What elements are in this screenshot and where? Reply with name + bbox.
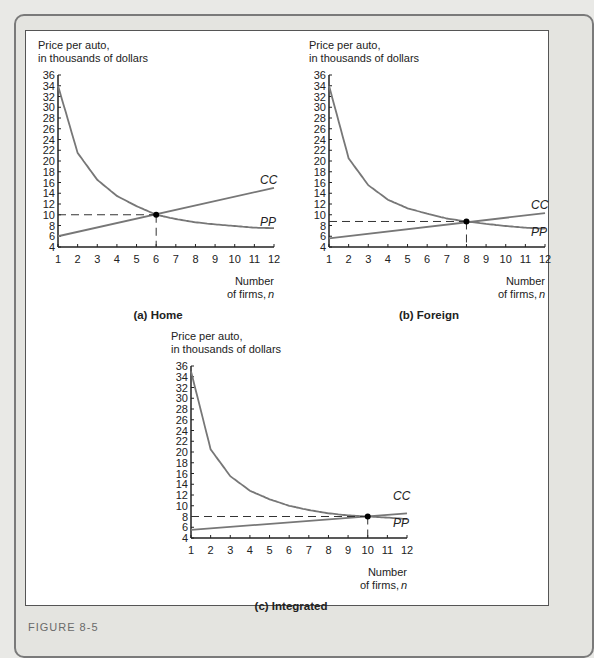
- x-tick-label: 11: [520, 253, 531, 265]
- y-tick-label: 22: [176, 435, 188, 447]
- x-axis-label: of firms,: [227, 288, 266, 300]
- chart-integrated: Price per auto,in thousands of dollars46…: [171, 330, 413, 612]
- cc-curve: [191, 371, 407, 519]
- x-tick-label: 6: [286, 544, 292, 556]
- y-tick-label: 6: [49, 230, 55, 242]
- x-tick-label: 12: [401, 544, 413, 556]
- y-tick-label: 12: [43, 198, 55, 210]
- pp-line: [191, 513, 407, 530]
- x-axis-label: of firms,: [498, 288, 537, 300]
- x-axis-label: Number: [368, 566, 407, 578]
- x-axis-variable: n: [268, 288, 274, 300]
- figure-label: FIGURE 8-5: [28, 621, 99, 633]
- y-tick-label: 4: [182, 532, 188, 544]
- cc-curve: [329, 86, 545, 229]
- y-tick-label: 30: [43, 101, 55, 113]
- y-tick-label: 6: [320, 230, 326, 242]
- x-tick-label: 4: [385, 253, 391, 265]
- chart-caption: (b) Foreign: [399, 309, 459, 321]
- y-tick-label: 28: [43, 112, 55, 124]
- y-tick-label: 24: [314, 134, 326, 146]
- y-axis-label: Price per auto,: [38, 39, 110, 51]
- y-axis-label: in thousands of dollars: [38, 52, 149, 64]
- y-tick-label: 24: [43, 134, 55, 146]
- x-tick-label: 12: [539, 253, 551, 265]
- y-axis-label: Price per auto,: [171, 330, 243, 342]
- chart-caption: (c) Integrated: [255, 600, 328, 612]
- y-tick-label: 32: [176, 382, 188, 394]
- x-tick-label: 3: [227, 544, 233, 556]
- y-tick-label: 18: [176, 457, 188, 469]
- chart-foreign: Price per auto,in thousands of dollars46…: [309, 39, 551, 321]
- y-tick-label: 8: [182, 511, 188, 523]
- y-tick-label: 26: [176, 414, 188, 426]
- y-tick-label: 26: [43, 123, 55, 135]
- y-tick-label: 28: [176, 403, 188, 415]
- y-axis-label: Price per auto,: [309, 39, 381, 51]
- x-tick-label: 7: [173, 253, 179, 265]
- y-tick-label: 20: [176, 446, 188, 458]
- y-tick-label: 22: [314, 144, 326, 156]
- x-tick-label: 9: [345, 544, 351, 556]
- equilibrium-point: [365, 514, 371, 520]
- x-tick-label: 11: [249, 253, 260, 265]
- x-tick-label: 2: [346, 253, 352, 265]
- y-tick-label: 8: [320, 220, 326, 232]
- y-tick-label: 12: [314, 198, 326, 210]
- x-tick-label: 4: [114, 253, 120, 265]
- chart-caption: (a) Home: [133, 309, 182, 321]
- x-tick-label: 3: [365, 253, 371, 265]
- y-tick-label: 36: [176, 360, 188, 372]
- cc-curve: [58, 86, 274, 228]
- cc-label: CC: [260, 173, 278, 187]
- y-tick-label: 4: [49, 241, 55, 253]
- y-tick-label: 28: [314, 112, 326, 124]
- pp-line: [58, 188, 274, 236]
- x-axis-label: Number: [506, 275, 545, 287]
- y-tick-label: 14: [176, 478, 188, 490]
- chart-home: Price per auto,in thousands of dollars46…: [38, 39, 280, 321]
- x-tick-label: 10: [500, 253, 512, 265]
- y-tick-label: 34: [43, 80, 55, 92]
- y-tick-label: 20: [43, 155, 55, 167]
- y-tick-label: 8: [49, 220, 55, 232]
- y-tick-label: 16: [314, 177, 326, 189]
- y-tick-label: 20: [314, 155, 326, 167]
- y-axis-label: in thousands of dollars: [171, 343, 282, 355]
- x-tick-label: 3: [94, 253, 100, 265]
- y-tick-label: 26: [314, 123, 326, 135]
- x-tick-label: 6: [424, 253, 430, 265]
- x-tick-label: 11: [382, 544, 393, 556]
- y-tick-label: 30: [314, 101, 326, 113]
- y-tick-label: 18: [314, 166, 326, 178]
- x-tick-label: 4: [247, 544, 253, 556]
- x-tick-label: 7: [306, 544, 312, 556]
- y-tick-label: 24: [176, 425, 188, 437]
- y-tick-label: 14: [314, 187, 326, 199]
- y-tick-label: 10: [176, 500, 188, 512]
- x-tick-label: 1: [188, 544, 194, 556]
- x-tick-label: 8: [325, 544, 331, 556]
- pp-label: PP: [260, 215, 276, 229]
- y-tick-label: 14: [43, 187, 55, 199]
- x-tick-label: 1: [326, 253, 332, 265]
- x-tick-label: 9: [212, 253, 218, 265]
- x-axis-label: of firms,: [360, 579, 399, 591]
- x-tick-label: 1: [55, 253, 61, 265]
- y-tick-label: 32: [314, 91, 326, 103]
- x-tick-label: 2: [208, 544, 214, 556]
- x-tick-label: 10: [362, 544, 374, 556]
- y-tick-label: 16: [43, 177, 55, 189]
- y-tick-label: 10: [314, 209, 326, 221]
- y-tick-label: 36: [43, 69, 55, 81]
- y-tick-label: 22: [43, 144, 55, 156]
- cc-label: CC: [531, 198, 549, 212]
- y-tick-label: 12: [176, 489, 188, 501]
- y-axis-label: in thousands of dollars: [309, 52, 420, 64]
- y-tick-label: 32: [43, 91, 55, 103]
- x-tick-label: 6: [153, 253, 159, 265]
- x-tick-label: 2: [75, 253, 81, 265]
- y-tick-label: 10: [43, 209, 55, 221]
- pp-label: PP: [393, 516, 409, 530]
